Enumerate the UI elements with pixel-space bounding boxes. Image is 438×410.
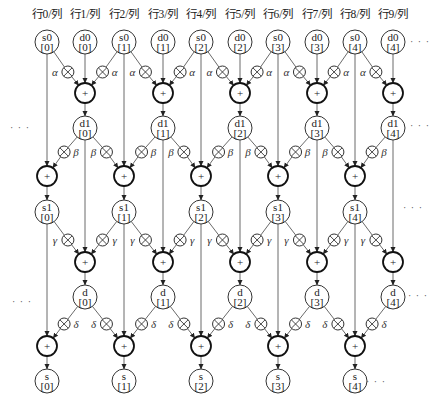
edge [323, 77, 330, 86]
coefficient-label: δ [74, 318, 80, 330]
multiplier-node: α [328, 66, 349, 78]
adder-node: + [153, 252, 173, 272]
node-s1-0: s1[0] [35, 200, 59, 224]
node-index: [4] [387, 127, 400, 139]
adder-node: + [230, 252, 250, 272]
multiplier-node: δ [290, 318, 311, 330]
ellipsis-indicator: · · · [10, 122, 30, 133]
coefficient-label: γ [361, 234, 366, 246]
coefficient-label: γ [112, 234, 117, 246]
plus-icon: + [121, 170, 127, 182]
adder-node: + [345, 166, 365, 186]
column-header-2: 行2/列 [109, 7, 140, 20]
adder-node: + [345, 336, 365, 356]
edge [53, 157, 61, 168]
edge [110, 329, 118, 338]
multiplier-node: β [167, 146, 190, 158]
column-header-9: 行9/列 [378, 7, 409, 20]
node-index: [1] [118, 41, 131, 53]
input-node-s0-[4]: s0[4] [343, 30, 367, 54]
plus-icon: + [44, 170, 50, 182]
multiplier-node: α [130, 66, 152, 78]
edge [285, 52, 296, 67]
coefficient-label: δ [305, 318, 311, 330]
coefficient-label: α [130, 66, 136, 78]
adder-node: + [268, 336, 288, 356]
column-header-7: 行7/列 [302, 7, 333, 20]
multiplier-node: β [213, 146, 234, 158]
plus-icon: + [82, 87, 88, 99]
node-d1-0: d1[0] [73, 116, 97, 140]
edge [72, 245, 79, 254]
edge [264, 157, 272, 168]
column-header-8: 行8/列 [340, 7, 371, 20]
node-index: [2] [234, 296, 247, 308]
plus-icon: + [352, 170, 358, 182]
edge [207, 157, 215, 168]
multiplier-node: β [366, 146, 387, 158]
multiplier-node: α [97, 66, 118, 78]
multiplier-node: δ [58, 318, 79, 330]
coefficient-label: β [150, 146, 157, 158]
edge [169, 245, 176, 254]
coefficient-label: γ [284, 234, 289, 246]
coefficient-label: γ [207, 234, 212, 246]
nodes-layer: s0[0]d0[0]s0[1]d0[1]s0[2]d0[2]s0[3]d0[3]… [35, 30, 405, 393]
edge [91, 77, 98, 86]
coefficient-label: γ [344, 234, 349, 246]
node-index: [0] [79, 41, 92, 53]
node-index: [0] [41, 380, 54, 392]
input-node-d0-[1]: d0[1] [151, 30, 175, 54]
edge [380, 245, 387, 254]
coefficient-label: α [112, 66, 118, 78]
node-index: [2] [234, 41, 247, 53]
coefficient-label: γ [130, 234, 135, 246]
node-s-4: s[4] [343, 369, 367, 393]
adder-node: + [383, 83, 403, 103]
adder-node: + [307, 252, 327, 272]
plus-icon: + [237, 87, 243, 99]
coefficient-label: δ [228, 318, 234, 330]
coefficient-label: α [284, 66, 290, 78]
adder-node: + [37, 336, 57, 356]
multiplier-node: γ [53, 234, 74, 246]
node-s1-3: s1[3] [266, 200, 290, 224]
multiplier-node: δ [168, 318, 190, 330]
adder-node: + [114, 336, 134, 356]
plus-icon: + [275, 340, 281, 352]
coefficient-label: β [244, 146, 251, 158]
edge [226, 77, 233, 86]
node-index: [4] [349, 211, 362, 223]
coefficient-label: β [227, 146, 234, 158]
node-index: [3] [272, 380, 285, 392]
coefficient-label: δ [245, 318, 251, 330]
node-s-0: s[0] [35, 369, 59, 393]
edge [187, 157, 195, 168]
adder-node: + [230, 83, 250, 103]
ellipsis-indicator: · · · [403, 202, 423, 213]
edge [131, 52, 142, 67]
coefficient-label: α [189, 66, 195, 78]
node-d1-4: d1[4] [381, 116, 405, 140]
coefficient-label: β [72, 146, 79, 158]
input-node-s0-[0]: s0[0] [35, 30, 59, 54]
ellipsis-indicator: · · · [366, 376, 386, 387]
coefficient-label: δ [168, 318, 174, 330]
edge [303, 77, 310, 86]
node-index: [0] [79, 127, 92, 139]
node-index: [0] [41, 41, 54, 53]
node-index: [4] [387, 296, 400, 308]
multiplier-node: γ [174, 234, 195, 246]
multiplier-node: α [207, 66, 229, 78]
node-s1-1: s1[1] [112, 200, 136, 224]
coefficient-label: α [266, 66, 272, 78]
edge [169, 77, 176, 86]
node-index: [4] [349, 380, 362, 392]
adder-node: + [153, 83, 173, 103]
edge [130, 329, 138, 338]
node-index: [2] [195, 380, 208, 392]
node-index: [1] [118, 380, 131, 392]
adder-node: + [75, 83, 95, 103]
edge [149, 245, 157, 254]
plus-icon: + [390, 87, 396, 99]
